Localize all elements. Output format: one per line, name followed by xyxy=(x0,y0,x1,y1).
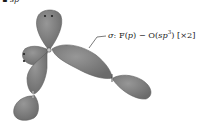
oxygen-atom xyxy=(47,48,51,52)
molecule-orbitals xyxy=(0,0,213,125)
cut-off-label: ▪ sp3 xyxy=(2,0,23,4)
sigma-bond-annotation: σ: F(p) − O(sp3) [×2] xyxy=(108,30,196,40)
text-part: : F( xyxy=(114,30,128,40)
text-part: ) xyxy=(171,30,174,40)
o-orbital: sp xyxy=(158,30,167,40)
lone-pair-lobe-top xyxy=(36,10,61,49)
multiplicity: [×2] xyxy=(177,30,195,40)
exponent: 3 xyxy=(168,29,172,35)
orbital-diagram: ▪ sp3 xyxy=(0,0,213,125)
annotation-leader-line xyxy=(89,36,106,48)
sigma-bond-lobe-right xyxy=(52,45,151,99)
label-fragment: sp xyxy=(10,0,19,4)
text-part: ) − O( xyxy=(133,30,158,40)
